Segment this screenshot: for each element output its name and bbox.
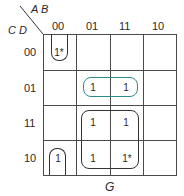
col-header-10: 10	[152, 21, 164, 32]
grid-line	[176, 34, 177, 176]
row-variable-label: C D	[8, 24, 27, 36]
cell-10-00: 1	[48, 154, 68, 164]
cell-00-00: 1*	[49, 48, 69, 58]
cell-10-11: 1*	[117, 154, 137, 164]
grid-line	[76, 34, 77, 176]
row-header-00: 00	[24, 47, 36, 58]
col-header-01: 01	[86, 21, 98, 32]
cell-11-11: 1	[116, 118, 136, 128]
cell-10-01: 1	[83, 154, 103, 164]
output-label: G	[105, 180, 114, 194]
cell-11-01: 1	[83, 118, 103, 128]
cell-01-01: 1	[83, 83, 103, 93]
row-header-01: 01	[24, 83, 36, 94]
col-variable-label: A B	[31, 3, 48, 15]
row-header-10: 10	[24, 153, 36, 164]
col-header-11: 11	[119, 21, 130, 32]
grid-line	[143, 34, 144, 176]
cell-01-11: 1	[116, 83, 136, 93]
row-header-11: 11	[24, 118, 35, 129]
col-header-00: 00	[52, 21, 64, 32]
grid-line	[43, 34, 44, 176]
